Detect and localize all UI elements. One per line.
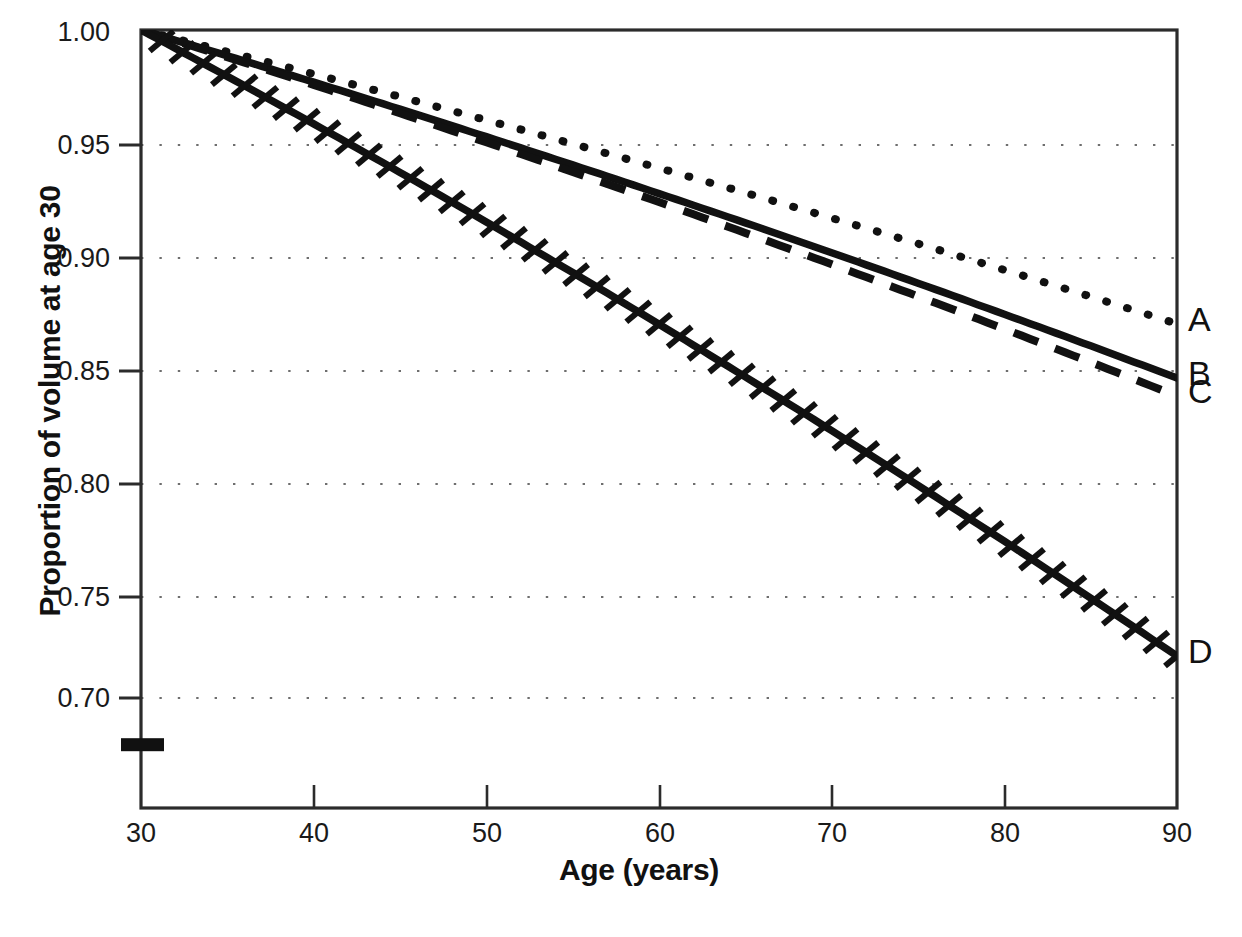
y-axis-title-wrap: Proportion of volume at age 30 bbox=[0, 0, 56, 800]
chart-figure: 1.00 0.95 0.90 0.85 0.80 0.75 0.70 30 40… bbox=[0, 0, 1242, 937]
plot-curve-c bbox=[141, 30, 1177, 396]
x-axis-ticks bbox=[314, 785, 1005, 808]
x-tick-label-50: 50 bbox=[452, 818, 522, 849]
x-tick-label-90: 90 bbox=[1142, 818, 1212, 849]
x-tick-label-40: 40 bbox=[279, 818, 349, 849]
curve-label-d: D bbox=[1188, 632, 1213, 671]
y-axis-ticks bbox=[119, 145, 141, 698]
gridlines bbox=[141, 145, 1177, 698]
plot-curve-d bbox=[141, 30, 1177, 656]
x-tick-label-80: 80 bbox=[970, 818, 1040, 849]
plot-frame bbox=[141, 30, 1177, 808]
baseline-bar-marker bbox=[121, 738, 164, 751]
x-tick-label-60: 60 bbox=[625, 818, 695, 849]
curve-label-a: A bbox=[1188, 300, 1211, 339]
line-chart-plot bbox=[0, 0, 1242, 937]
y-axis-title: Proportion of volume at age 30 bbox=[33, 1, 67, 801]
x-axis-title: Age (years) bbox=[421, 853, 857, 887]
x-tick-label-70: 70 bbox=[797, 818, 867, 849]
curve-label-c: C bbox=[1188, 372, 1213, 411]
x-tick-label-30: 30 bbox=[106, 818, 176, 849]
